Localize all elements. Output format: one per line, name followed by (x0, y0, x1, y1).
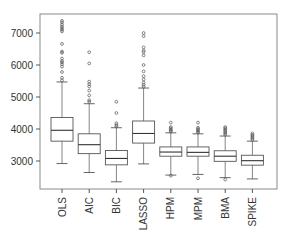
iqr-box (105, 150, 127, 164)
outlier-point (224, 178, 227, 181)
box-lasso (133, 32, 155, 164)
outlier-point (169, 121, 172, 124)
outlier-point (88, 89, 91, 92)
iqr-box (51, 117, 73, 141)
box-aic (78, 51, 100, 173)
box-bic (105, 100, 127, 181)
box-hpm (160, 121, 182, 177)
x-tick-label-lasso: LASSO (138, 197, 149, 231)
y-tick-label: 4000 (11, 124, 34, 135)
x-axis: OLSAICBICLASSOHPMMPMBMASPIKE (57, 189, 258, 230)
outlier-point (61, 42, 64, 45)
y-tick-label: 5000 (11, 92, 34, 103)
box-plot-chart: 30004000500060007000 OLSAICBICLASSOHPMMP… (0, 0, 291, 232)
x-tick-label-aic: AIC (84, 197, 95, 214)
outlier-point (197, 121, 200, 124)
iqr-box (133, 121, 155, 143)
outlier-point (115, 100, 118, 103)
box-bma (214, 126, 236, 181)
outlier-point (61, 71, 64, 74)
outlier-point (142, 78, 145, 81)
chart-canvas: 30004000500060007000 OLSAICBICLASSOHPMMP… (0, 0, 291, 232)
outlier-point (115, 112, 118, 115)
outlier-point (142, 32, 145, 35)
y-tick-label: 3000 (11, 156, 34, 167)
box-series (51, 19, 263, 181)
outlier-point (88, 51, 91, 54)
x-tick-label-mpm: MPM (193, 197, 204, 220)
y-tick-label: 7000 (11, 28, 34, 39)
x-tick-label-hpm: HPM (165, 197, 176, 219)
outlier-point (142, 46, 145, 49)
outlier-point (88, 94, 91, 97)
x-tick-label-bma: BMA (220, 197, 231, 219)
iqr-box (78, 134, 100, 154)
iqr-box (187, 147, 209, 156)
box-spike (241, 132, 263, 179)
y-axis: 30004000500060007000 (11, 28, 40, 167)
outlier-point (88, 62, 91, 65)
outlier-point (115, 122, 118, 125)
x-tick-label-bic: BIC (111, 197, 122, 214)
x-tick-label-spike: SPIKE (247, 197, 258, 227)
outlier-point (142, 75, 145, 78)
x-tick-label-ols: OLS (57, 197, 68, 217)
y-tick-label: 6000 (11, 60, 34, 71)
box-mpm (187, 121, 209, 179)
outlier-point (142, 70, 145, 73)
outlier-point (197, 177, 200, 180)
box-ols (51, 19, 73, 163)
outlier-point (142, 64, 145, 67)
outlier-point (142, 35, 145, 38)
outlier-point (142, 54, 145, 57)
